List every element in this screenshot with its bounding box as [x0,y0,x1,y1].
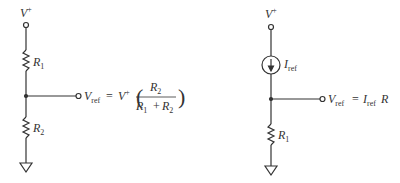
svg-text:): ) [178,84,185,109]
ground-icon-right [265,166,277,175]
supply-label-left: V+ [20,5,32,20]
divider-equation: Vref = V+ ( R2 R1 + R2 ) [84,80,185,115]
svg-text:Iref: Iref [362,92,376,108]
svg-text:Vref: Vref [328,92,345,108]
supply-terminal-left [24,23,29,28]
svg-text:=: = [352,92,359,106]
supply-terminal-right [269,25,274,30]
resistor-r1-right-icon [268,124,274,145]
output-terminal-left [76,94,81,99]
resistive-divider-circuit [20,23,81,173]
svg-text:=: = [106,89,113,103]
iref-equation: Vref = Iref R [328,92,389,108]
svg-text:Vref: Vref [84,89,101,105]
svg-text:R: R [380,92,389,106]
svg-text:V+: V+ [118,88,130,103]
iref-label: Iref [283,57,297,73]
resistor-r1-icon [23,50,29,71]
svg-text:R2: R2 [149,80,161,96]
current-source-circuit [262,25,325,176]
r1-label: R1 [32,55,44,71]
ground-icon-left [20,163,32,172]
r2-label: R2 [32,121,44,137]
supply-label-right: V+ [265,6,277,21]
circuit-diagrams: V+ R1 R2 Vref = V+ ( R2 R1 + R2 ) V+ Ire… [0,0,400,183]
svg-text:R1: R1 [135,99,147,115]
resistor-r2-icon [23,117,29,138]
svg-text:+: + [153,99,160,113]
output-terminal-right [320,97,325,102]
svg-text:R2: R2 [161,99,173,115]
r1-right-label: R1 [277,128,289,144]
